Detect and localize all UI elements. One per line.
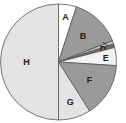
slice-label-g: G: [67, 97, 74, 107]
pie-chart: ABDEFGH: [0, 0, 126, 123]
slice-label-e: E: [103, 53, 109, 63]
slice-label-f: F: [87, 75, 93, 85]
slice-label-b: B: [80, 31, 87, 41]
slice-label-a: A: [62, 12, 69, 22]
slice-label-h: H: [23, 57, 30, 67]
pie-chart-svg: ABDEFGH: [0, 0, 126, 123]
